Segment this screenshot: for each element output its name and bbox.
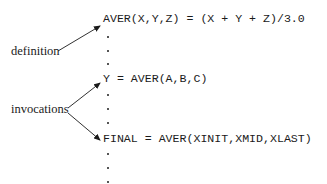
continuation-dot [107, 181, 109, 183]
invocations-label: invocations [11, 103, 69, 116]
continuation-dot [107, 108, 109, 110]
continuation-dot [107, 63, 109, 65]
arrows-layer [0, 0, 327, 184]
function-definition-statement: AVER(X,Y,Z) = (X + Y + Z)/3.0 [103, 13, 305, 25]
continuation-dot [107, 167, 109, 169]
continuation-dot [107, 94, 109, 96]
invocation-statement-2: FINAL = AVER(XINIT,XMID,XLAST) [103, 133, 312, 145]
definition-arrow [58, 26, 100, 51]
continuation-dot [107, 122, 109, 124]
invocation-statement-1: Y = AVER(A,B,C) [103, 73, 207, 85]
continuation-dot [107, 153, 109, 155]
definition-label: definition [11, 45, 60, 58]
continuation-dot [107, 36, 109, 38]
invocation-arrow-1 [68, 83, 100, 108]
continuation-dot [107, 50, 109, 52]
invocation-arrow-2 [68, 113, 100, 140]
